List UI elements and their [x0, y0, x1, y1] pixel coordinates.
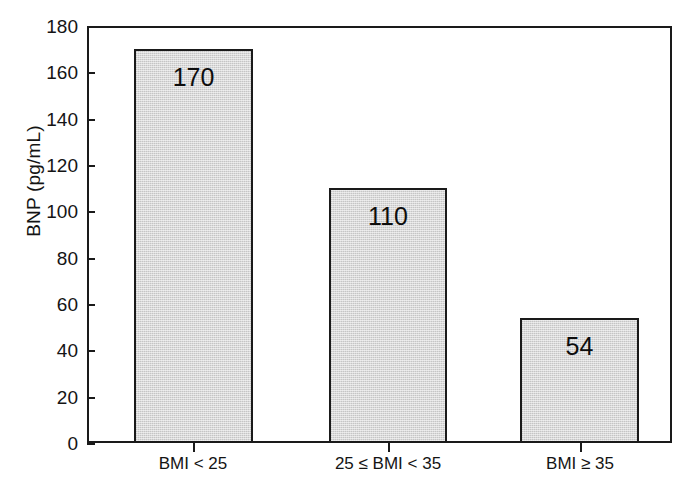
y-tick-label: 20 — [0, 387, 78, 406]
x-tick-mark — [388, 443, 390, 452]
y-tick-label: 140 — [0, 109, 78, 128]
y-tick-label: 160 — [0, 63, 78, 82]
x-axis-label-bmi-lt-25: BMI < 25 — [159, 455, 228, 472]
bar-chart: BNP (pg/mL) 180 160 140 120 100 80 — [0, 0, 689, 494]
y-tick-mark — [87, 119, 95, 121]
y-tick-label: 60 — [0, 295, 78, 314]
y-tick-label: 100 — [0, 202, 78, 221]
bar-value-label: 170 — [136, 65, 251, 90]
y-tick-mark — [87, 72, 95, 74]
bar-bmi-ge-35: 54 — [520, 318, 639, 443]
x-axis-label-bmi-25-to-35: 25 ≤ BMI < 35 — [335, 455, 441, 472]
y-tick-label: 80 — [0, 248, 78, 267]
bar-value-label: 54 — [522, 334, 637, 359]
y-tick-mark — [87, 443, 95, 445]
y-tick-mark — [87, 304, 95, 306]
y-tick-label: 180 — [0, 17, 78, 36]
x-axis-label-bmi-ge-35: BMI ≥ 35 — [546, 455, 614, 472]
y-tick-label: 0 — [0, 434, 78, 453]
y-tick-label: 40 — [0, 341, 78, 360]
x-tick-mark — [193, 443, 195, 452]
x-tick-mark — [580, 443, 582, 452]
y-tick-mark — [87, 26, 95, 28]
bar-value-label: 110 — [331, 204, 445, 229]
y-tick-mark — [87, 350, 95, 352]
y-tick-mark — [87, 397, 95, 399]
bar-bmi-lt-25: 170 — [134, 49, 253, 443]
y-tick-mark — [87, 211, 95, 213]
y-tick-label: 120 — [0, 156, 78, 175]
y-tick-mark — [87, 258, 95, 260]
bar-bmi-25-to-35: 110 — [329, 188, 447, 443]
y-tick-mark — [87, 165, 95, 167]
